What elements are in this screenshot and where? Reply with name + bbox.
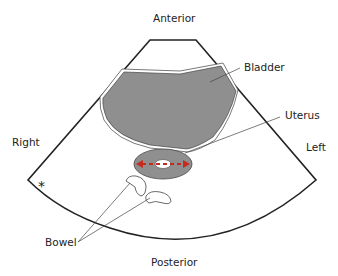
- label-uterus: Uterus: [285, 109, 320, 121]
- label-posterior: Posterior: [151, 256, 197, 268]
- ultrasound-diagram: [0, 0, 338, 276]
- label-bowel: Bowel: [45, 236, 77, 248]
- label-right: Right: [12, 136, 40, 148]
- label-bladder: Bladder: [244, 61, 285, 73]
- label-anterior: Anterior: [153, 12, 195, 24]
- asterisk-marker: *: [38, 178, 45, 194]
- label-left: Left: [306, 141, 326, 153]
